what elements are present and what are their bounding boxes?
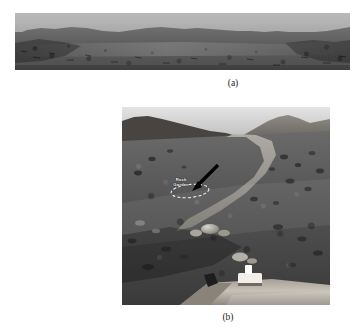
panel-b-scene-svg (122, 107, 330, 305)
panel-a-terrain-svg (15, 13, 350, 70)
panel-a-foreground-shadow (15, 65, 350, 70)
panel-a-caption: (a) (213, 78, 253, 88)
panel-a-panorama-image (15, 13, 350, 70)
panel-b-rover-image: Rock Garden (122, 107, 330, 305)
panel-b-caption: (b) (208, 312, 248, 322)
figure-container: (a) (0, 0, 353, 336)
